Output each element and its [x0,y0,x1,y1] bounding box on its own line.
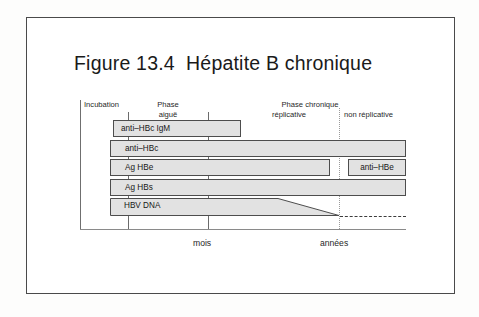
time-label-mois: mois [193,238,211,248]
phase-label-aigue-line2: aiguë [140,110,196,120]
chart-x-axis [80,229,406,230]
phase-label-incubation: Incubation [84,100,119,110]
marker-label-ag-hbs: Ag HBs [111,183,153,192]
marker-label-anti-hbe: anti–HBe [360,163,394,172]
marker-bar-hbv-dna: HBV DNA [110,198,406,217]
time-label-annees: années [320,238,348,248]
marker-label-hbv-dna: HBV DNA [124,201,160,210]
marker-label-anti-hbc-igm: anti–HBc IgM [114,124,170,133]
marker-bar-anti-hbc: anti–HBc [110,140,406,157]
hepatitis-b-timeline-chart: Incubation Phase aiguë Phase chronique r… [0,0,479,317]
scanned-page: Figure 13.4 Hépatite B chronique Incubat… [0,0,479,317]
phase-label-chronique: Phase chronique [250,100,370,110]
marker-bar-anti-hbc-igm: anti–HBc IgM [113,120,241,137]
phase-label-aigue-line1: Phase [140,100,196,110]
marker-bar-ag-hbe: Ag HBe [110,159,330,176]
marker-label-ag-hbe: Ag HBe [111,163,153,172]
phase-label-non-replicative: non réplicative [344,110,393,120]
marker-bar-ag-hbs: Ag HBs [110,179,406,196]
hbv-dna-dashed-tail [340,216,406,217]
marker-bar-anti-hbe: anti–HBe [348,159,406,176]
chart-y-axis [80,100,81,230]
phase-label-replicative: réplicative [252,110,326,120]
marker-label-anti-hbc: anti–HBc [111,144,158,153]
